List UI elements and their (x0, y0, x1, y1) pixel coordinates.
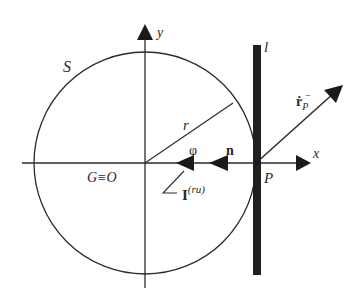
impulse-leader-line (163, 171, 184, 193)
velocity-superscript: − (305, 90, 311, 101)
x-axis-arrowhead-icon (296, 155, 311, 171)
label-impulse: I(ru) (182, 183, 205, 203)
line-l (253, 45, 261, 275)
impulse-superscript: (ru) (188, 183, 205, 196)
velocity-vector (256, 93, 334, 163)
label-velocity: ṙP− (296, 90, 311, 112)
point-p (255, 161, 260, 166)
label-y-axis: y (155, 25, 164, 40)
label-circle-s: S (63, 58, 71, 75)
label-normal-n: n (226, 143, 234, 158)
label-angle-phi: φ (189, 143, 197, 158)
label-x-axis: x (312, 146, 320, 161)
velocity-subscript: P (301, 101, 308, 112)
vector-diagram: S y x l r G≡O P n φ I(ru) ṙP− (0, 0, 362, 306)
label-point-p: P (263, 170, 273, 186)
label-radius: r (183, 117, 189, 133)
label-line-l: l (264, 39, 268, 55)
y-axis-arrowhead-icon (137, 24, 153, 40)
label-origin: G≡O (87, 170, 117, 185)
